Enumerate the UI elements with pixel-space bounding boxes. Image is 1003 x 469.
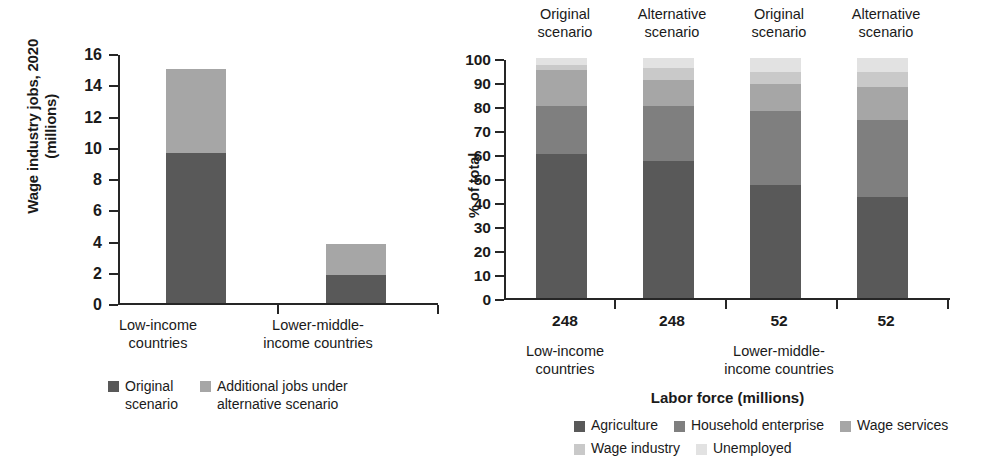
category-line2: countries [129,335,188,351]
scenario-line1: Original [754,6,804,22]
left-chart-y-tick-label-5: 10 [62,141,102,157]
right-chart-bar-1 [643,58,694,298]
scenario-line1: Alternative [852,6,921,22]
legend-swatch-icon [574,421,585,432]
left-chart-legend-item-0: Original scenario [108,378,178,414]
category-line2: income countries [263,335,373,351]
right-chart-value-label-2: 52 [724,312,834,330]
group-line1: Lower-middle- [733,343,825,359]
legend-swatch-icon [840,421,851,432]
left-chart-y-axis-line [118,55,120,305]
scenario-line2: scenario [645,24,700,40]
right-chart-y-tick-1 [495,275,504,277]
right-chart-scenario-label-0: Original scenario [510,5,620,41]
right-chart-x-tick-0 [614,300,616,309]
left-chart-y-tick-4 [109,179,118,181]
right-chart-bar-segment [750,111,801,185]
right-chart-bar-segment [750,72,801,84]
right-chart-scenario-label-1: Alternative scenario [617,5,727,41]
right-chart-x-axis-line [504,298,950,300]
left-chart-y-axis-label: Wage industry jobs, 2020 (millions) [24,0,61,256]
right-chart-y-tick-label-6: 60 [451,148,491,164]
left-chart-plot-area: 0246810121416 [118,55,438,305]
left-chart-y-tick-2 [109,242,118,244]
right-chart-group-label-0: Low-income countries [470,342,660,378]
right-chart-bar-segment [643,68,694,80]
right-chart-y-tick-3 [495,227,504,229]
left-chart-legend-label-1: Additional jobs under alternative scenar… [217,378,348,414]
right-chart-plot-area: 0102030405060708090100 [504,60,950,300]
legend-swatch-icon [574,444,585,455]
right-chart-y-tick-label-0: 0 [451,292,491,308]
right-chart-legend-label-4: Unemployed [713,439,792,457]
left-chart-legend-label-0: Original scenario [125,378,178,414]
scenario-line2: scenario [538,24,593,40]
right-chart-bar-segment [643,58,694,68]
right-chart-bar-segment [536,70,587,106]
left-chart-y-axis-label-line1: Wage industry jobs, 2020 [24,39,41,214]
left-chart-y-tick-label-6: 12 [62,110,102,126]
left-chart-category-label-1: Lower-middle- income countries [238,316,398,352]
left-chart-y-tick-6 [109,117,118,119]
left-chart-y-tick-label-2: 4 [62,235,102,251]
right-chart-y-tick-label-3: 30 [451,220,491,236]
left-chart-x-tick-1 [437,305,439,314]
right-chart-value-label-3: 52 [831,312,941,330]
right-chart-legend-item-4: Unemployed [696,439,792,457]
left-chart-y-tick-label-1: 2 [62,266,102,282]
legend-swatch-icon [108,381,119,392]
legend-label-line2: scenario [125,396,178,412]
right-chart-bar-3 [857,58,908,298]
left-chart-y-tick-label-0: 0 [62,297,102,313]
category-line1: Low-income [119,317,197,333]
left-chart-y-axis-label-line2: (millions) [42,94,59,159]
right-chart-legend-label-3: Wage industry [591,439,680,457]
right-chart-legend: Agriculture Household enterprise Wage se… [574,416,994,462]
right-chart-panel: % of total 0102030405060708090100 Origin… [452,0,1003,469]
right-chart-legend-item-1: Household enterprise [674,416,824,434]
left-chart-y-tick-label-7: 14 [62,78,102,94]
right-chart-bar-segment [857,72,908,86]
left-chart-y-tick-0 [109,304,118,306]
left-chart-bar-0 [166,69,226,303]
right-chart-y-tick-label-5: 50 [451,172,491,188]
right-chart-scenario-label-3: Alternative scenario [831,5,941,41]
right-chart-bar-segment [857,197,908,298]
right-chart-bar-2 [750,58,801,298]
right-chart-bar-segment [643,80,694,106]
right-chart-scenario-label-2: Original scenario [724,5,834,41]
right-chart-bar-segment [857,58,908,72]
right-chart-bar-segment [536,154,587,298]
right-chart-legend-label-2: Wage services [857,416,948,434]
right-chart-bar-segment [536,58,587,65]
right-chart-y-tick-6 [495,155,504,157]
group-line1: Low-income [526,343,604,359]
left-chart-panel: Wage industry jobs, 2020 (millions) 0246… [0,0,452,469]
right-chart-y-tick-2 [495,251,504,253]
scenario-line2: scenario [752,24,807,40]
left-chart-bar-1 [326,244,386,303]
legend-label-line2: alternative scenario [217,396,338,412]
right-chart-bar-segment [750,58,801,72]
right-chart-y-tick-4 [495,203,504,205]
right-chart-group-label-1: Lower-middle- income countries [684,342,874,378]
scenario-line1: Original [540,6,590,22]
right-chart-bar-segment [750,185,801,298]
right-chart-y-tick-9 [495,83,504,85]
right-chart-x-axis-label: Labor force (millions) [452,389,1003,406]
right-chart-y-tick-5 [495,179,504,181]
right-chart-legend-label-0: Agriculture [591,416,658,434]
group-line2: countries [536,361,595,377]
category-line1: Lower-middle- [272,317,364,333]
right-chart-legend-item-3: Wage industry [574,439,680,457]
right-chart-x-tick-1 [725,300,727,309]
right-chart-x-tick-2 [836,300,838,309]
left-chart-y-tick-3 [109,210,118,212]
right-chart-bar-segment [857,120,908,197]
right-chart-value-label-0: 248 [510,312,620,330]
legend-swatch-icon [696,444,707,455]
left-chart-y-tick-label-3: 6 [62,203,102,219]
right-chart-bar-segment [643,161,694,298]
scenario-line2: scenario [859,24,914,40]
legend-label-line1: Additional jobs under [217,378,348,394]
